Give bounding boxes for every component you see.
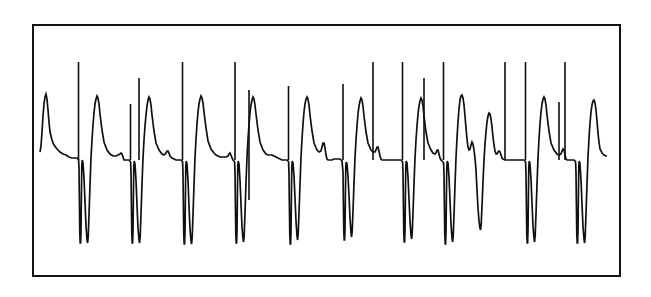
- ecg-trace-line: [40, 94, 607, 244]
- ecg-figure: [0, 0, 651, 297]
- ecg-waveform-canvas: [0, 0, 651, 297]
